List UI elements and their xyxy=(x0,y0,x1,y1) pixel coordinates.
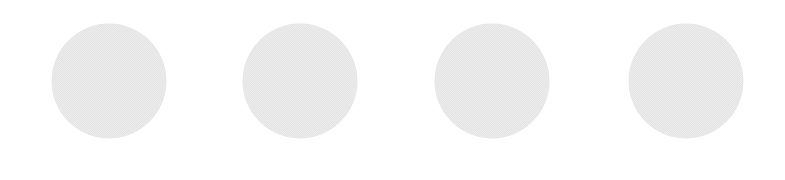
dot-row xyxy=(0,0,785,180)
dot-1 xyxy=(52,24,166,138)
dot-3 xyxy=(435,24,549,138)
canvas xyxy=(0,0,785,180)
dot-4 xyxy=(629,24,743,138)
dot-2 xyxy=(243,24,357,138)
